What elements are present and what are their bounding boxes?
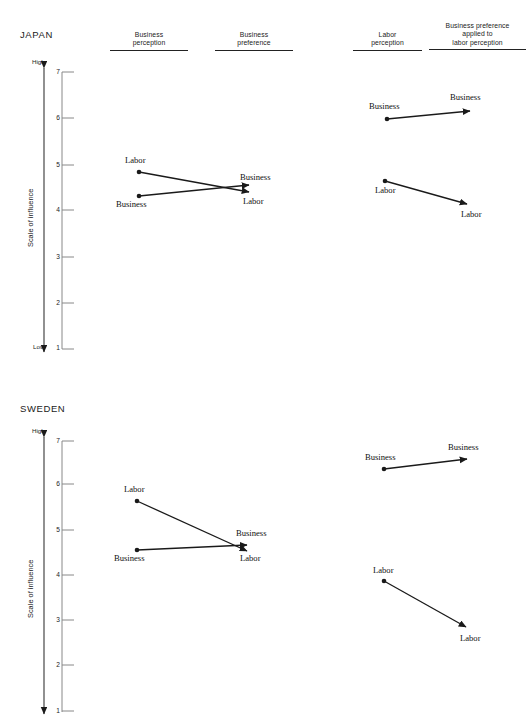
column-header-line: Business [215, 31, 293, 39]
column-header-business-preference: Business preference [215, 31, 293, 51]
series-point-business [137, 194, 142, 199]
axis-tick-label: 3 [50, 616, 60, 623]
chart-vector-layer [0, 0, 529, 716]
series-label-labor-end: Labor [460, 633, 481, 643]
axis-tick-label: 2 [50, 661, 60, 668]
column-header-business-perception: Business perception [110, 31, 188, 51]
column-header-line: perception [353, 39, 422, 47]
series-line-business [137, 545, 247, 550]
series-label-labor-start: Labor [373, 565, 394, 575]
column-header-business-preference-applied: Business preference applied to labor per… [429, 22, 526, 50]
axis-tick-label: 2 [50, 299, 60, 306]
series-label-business-start: Business [116, 199, 147, 209]
series-line-labor [137, 501, 247, 551]
column-header-line: Labor [353, 31, 422, 39]
series-point-labor [383, 179, 388, 184]
series-label-business-end: Business [448, 442, 479, 452]
axis-title-japan: Scale of influence [26, 189, 35, 247]
series-point-labor [137, 170, 142, 175]
axis-tick-label: 1 [50, 707, 60, 714]
axis-tick-label: 7 [50, 437, 60, 444]
axis-high-label-sweden: High [32, 427, 45, 434]
panel-title-sweden: SWEDEN [20, 403, 65, 414]
axis-tick-label: 7 [50, 68, 60, 75]
axis-low-label-japan: Low [33, 343, 44, 350]
axis-tick-label: 6 [50, 480, 60, 487]
column-header-line: Business [110, 31, 188, 39]
series-label-labor-start: Labor [375, 185, 396, 195]
series-label-business-end: Business [236, 528, 267, 538]
column-header-labor-perception: Labor perception [353, 31, 422, 51]
axis-tick-label: 3 [50, 253, 60, 260]
series-line-business [139, 185, 249, 196]
column-header-line: preference [215, 39, 293, 47]
series-line-labor [385, 181, 467, 204]
series-line-business [384, 459, 467, 469]
series-label-business-end: Business [450, 92, 481, 102]
series-label-labor-end: Labor [243, 196, 264, 206]
series-label-business-start: Business [114, 553, 145, 563]
series-point-business [135, 548, 140, 553]
sweden-right-chart [382, 459, 467, 627]
axis-high-label-japan: High [32, 58, 45, 65]
column-header-line: labor perception [429, 39, 526, 47]
axis-tick-label: 5 [50, 161, 60, 168]
series-label-labor-end: Labor [461, 209, 482, 219]
series-point-labor [382, 579, 387, 584]
series-label-labor-end: Labor [240, 553, 261, 563]
panel-title-japan: JAPAN [20, 29, 53, 40]
axis-title-sweden: Scale of influence [26, 560, 35, 618]
sweden-left-chart [135, 499, 247, 553]
series-line-labor [139, 172, 249, 192]
series-line-labor [384, 581, 466, 627]
japan-left-chart [137, 170, 249, 199]
series-point-business [385, 117, 390, 122]
series-line-business [387, 111, 470, 119]
axis-tick-label: 4 [50, 206, 60, 213]
series-label-business-start: Business [365, 452, 396, 462]
series-label-business-start: Business [369, 101, 400, 111]
column-header-line: applied to [429, 30, 526, 38]
axis-tick-label: 5 [50, 526, 60, 533]
series-point-labor [135, 499, 140, 504]
series-label-labor-start: Labor [125, 155, 146, 165]
axis-tick-label: 6 [50, 114, 60, 121]
column-header-line: perception [110, 39, 188, 47]
series-point-business [382, 467, 387, 472]
column-header-line: Business preference [429, 22, 526, 30]
axis-tick-label: 4 [50, 571, 60, 578]
series-label-business-end: Business [240, 172, 271, 182]
axis-tick-label: 1 [50, 344, 60, 351]
series-label-labor-start: Labor [124, 484, 145, 494]
